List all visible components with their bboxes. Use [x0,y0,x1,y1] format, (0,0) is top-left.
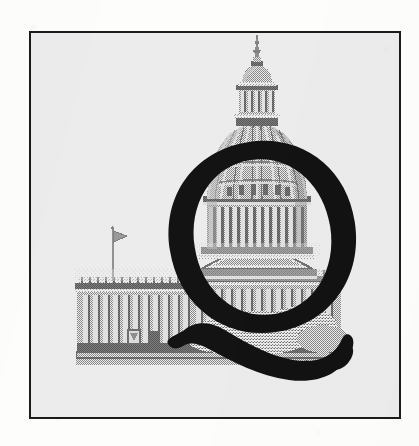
capitol-lantern [234,65,280,126]
capitol-photo [31,33,401,419]
scan-canvas [0,0,419,446]
capitol-atmosphere [75,243,343,281]
artwork-frame [29,31,401,419]
statue-of-freedom [251,35,263,66]
frame-interior [31,33,399,417]
capitol-north-wing [75,277,199,357]
capitol-dome [207,125,307,199]
